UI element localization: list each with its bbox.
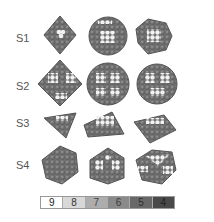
cluster-s1-3 xyxy=(136,19,172,54)
cluster-s3-2 xyxy=(84,112,124,137)
cluster-s2-1 xyxy=(38,60,82,106)
cluster-s3-1 xyxy=(44,113,76,138)
legend-cell-4: 4 xyxy=(153,197,174,208)
cluster-figure xyxy=(0,0,214,222)
cluster-s4-3 xyxy=(136,150,176,184)
coordination-legend: 9 8 7 6 5 4 xyxy=(40,196,175,209)
cluster-s4-2 xyxy=(90,148,124,184)
legend-cell-8: 8 xyxy=(63,197,85,208)
legend-cell-5: 5 xyxy=(130,197,152,208)
cluster-s2-2 xyxy=(87,63,129,105)
cluster-s2-3 xyxy=(137,64,177,104)
cluster-s3-3 xyxy=(134,115,176,143)
legend-cell-9: 9 xyxy=(41,197,63,208)
legend-cell-6: 6 xyxy=(108,197,130,208)
cluster-s1-1 xyxy=(44,16,76,54)
cluster-s1-2 xyxy=(89,17,127,55)
cluster-s4-1 xyxy=(42,146,78,184)
legend-cell-7: 7 xyxy=(86,197,108,208)
